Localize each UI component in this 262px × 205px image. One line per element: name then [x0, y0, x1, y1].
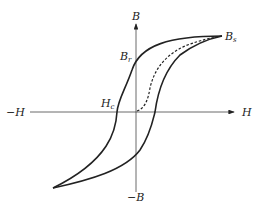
neg-h-axis-label: −H: [6, 106, 25, 119]
remanence-label: Br: [119, 50, 132, 64]
h-axis-label: H: [241, 106, 252, 119]
saturation-label: Bs: [224, 30, 237, 44]
initial-magnetization-curve: [137, 36, 222, 111]
coercivity-label: Hc: [100, 97, 115, 111]
hysteresis-diagram: B −B H −H Br Bs Hc: [0, 0, 262, 205]
neg-b-axis-label: −B: [127, 191, 144, 204]
b-axis-label: B: [131, 10, 140, 23]
